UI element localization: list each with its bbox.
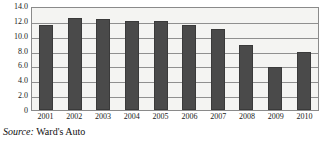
bar <box>96 19 110 110</box>
bar <box>125 21 139 110</box>
bar <box>68 18 82 110</box>
bar <box>39 25 53 110</box>
x-tick-label: 2002 <box>60 112 89 124</box>
x-tick-label: 2010 <box>290 112 319 124</box>
x-tick-label: 2001 <box>31 112 60 124</box>
bar-slot <box>32 8 61 110</box>
bar-slot <box>261 8 290 110</box>
x-tick-label: 2007 <box>204 112 233 124</box>
bar <box>239 45 253 110</box>
y-tick-label: 4.0 <box>18 77 28 85</box>
x-tick-label: 2005 <box>146 112 175 124</box>
bar <box>268 67 282 110</box>
x-tick-label: 2004 <box>117 112 146 124</box>
y-tick-label: 14.0 <box>14 3 28 11</box>
bar-slot <box>175 8 204 110</box>
x-tick-label: 2008 <box>233 112 262 124</box>
bar-chart: 14.012.010.08.06.04.02.00 20012002200320… <box>0 0 327 120</box>
y-tick-label: 2.0 <box>18 92 28 100</box>
source-label: Source: <box>3 126 34 137</box>
bar-slot <box>61 8 90 110</box>
bar-slot <box>232 8 261 110</box>
source-text: Ward's Auto <box>36 126 85 137</box>
bar <box>297 52 311 110</box>
x-tick-label: 2003 <box>89 112 118 124</box>
y-tick-label: 12.0 <box>14 18 28 26</box>
bar <box>154 21 168 110</box>
bar <box>182 25 196 110</box>
y-tick-label: 8.0 <box>18 48 28 56</box>
bar-slot <box>118 8 147 110</box>
bar <box>211 29 225 110</box>
source-caption: Source: Ward's Auto <box>3 126 85 138</box>
y-axis: 14.012.010.08.06.04.02.00 <box>0 0 30 113</box>
x-axis: 2001200220032004200520062007200820092010 <box>31 112 319 124</box>
x-tick-label: 2009 <box>261 112 290 124</box>
bar-slot <box>289 8 318 110</box>
y-tick-label: 10.0 <box>14 33 28 41</box>
plot-area <box>31 7 319 111</box>
figure-container: 14.012.010.08.06.04.02.00 20012002200320… <box>0 0 327 142</box>
bar-slot <box>146 8 175 110</box>
y-tick-label: 0 <box>24 107 28 115</box>
bars-group <box>32 8 318 110</box>
bar-slot <box>204 8 233 110</box>
x-tick-label: 2006 <box>175 112 204 124</box>
bar-slot <box>89 8 118 110</box>
y-tick-label: 6.0 <box>18 62 28 70</box>
